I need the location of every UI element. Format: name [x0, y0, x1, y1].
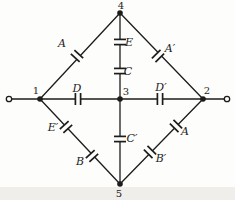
capacitor-E-branch-4-3-label: E	[124, 36, 133, 49]
capacitor-B-prime-branch-2-5-label: B′	[155, 152, 167, 165]
circuit-diagram: AA′ECDD′E′BC′AB′12345	[0, 0, 235, 200]
circuit-svg: AA′ECDD′E′BC′AB′12345	[0, 0, 235, 200]
capacitor-C-prime-branch-3-5	[113, 136, 128, 142]
capacitor-B-branch-1-5-label: B	[75, 155, 84, 168]
node-1-dot	[37, 96, 43, 102]
node-2-dot	[200, 96, 206, 102]
capacitor-A-branch-2-5-label: A	[180, 125, 189, 138]
capacitor-B-branch-1-5	[84, 149, 99, 164]
capacitor-gap	[69, 49, 84, 64]
capacitor-C-branch-4-3-label: C	[124, 65, 133, 78]
capacitor-D-prime-branch-3-2	[157, 92, 163, 107]
wire-1-5	[40, 99, 120, 184]
capacitor-E-prime-branch-1-5-label: E′	[47, 121, 59, 134]
node-4-label: 4	[118, 0, 124, 11]
capacitor-C-prime-branch-3-5-label: C′	[127, 132, 138, 145]
capacitor-D-prime-branch-3-2-label: D′	[154, 81, 167, 94]
node-3-label: 3	[123, 86, 129, 97]
capacitor-D-branch-1-3-label: D	[72, 82, 82, 95]
node-2-label: 2	[204, 85, 210, 96]
node-1-label: 1	[33, 85, 39, 96]
capacitor-A-branch-1-4-label: A	[57, 37, 66, 50]
capacitor-A-prime-branch-4-2-label: A′	[164, 42, 176, 55]
capacitor-gap	[84, 149, 99, 164]
node-5-dot	[117, 181, 123, 187]
terminal-right	[224, 96, 229, 101]
capacitor-gap	[151, 49, 166, 64]
capacitor-A-prime-branch-4-2	[151, 49, 166, 64]
capacitor-A-branch-1-4	[69, 49, 84, 64]
node-4-dot	[117, 10, 123, 16]
terminal-left	[6, 96, 11, 101]
node-3-dot	[117, 96, 123, 102]
node-5-label: 5	[116, 188, 122, 199]
